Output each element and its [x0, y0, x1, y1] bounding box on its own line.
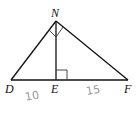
measurement-de: 10 — [24, 89, 40, 104]
vertex-label-e: E — [50, 82, 59, 96]
triangle-diagram: N D E F 10 15 — [0, 0, 139, 114]
vertex-label-d: D — [4, 82, 14, 96]
right-angle-mark-e — [56, 70, 67, 80]
vertex-label-n: N — [50, 6, 60, 20]
vertex-label-f: F — [123, 82, 132, 96]
measurement-ef: 15 — [85, 83, 101, 98]
